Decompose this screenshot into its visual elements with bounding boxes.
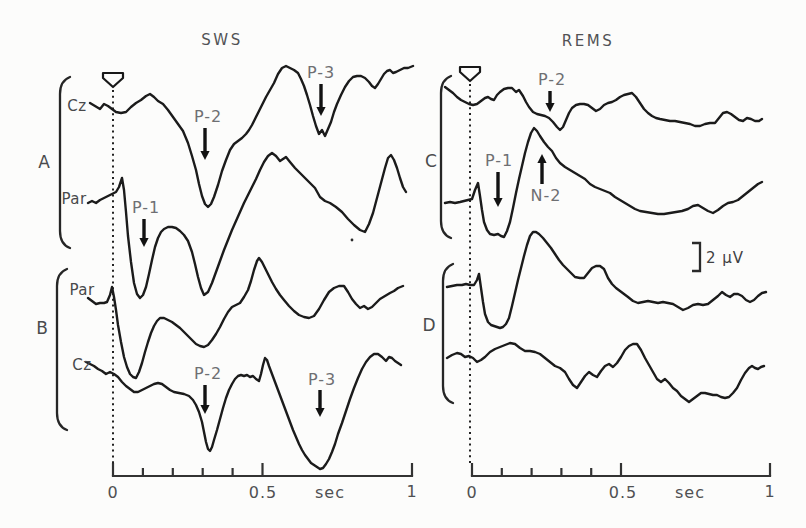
peak-label-p1-a: P-1 <box>132 198 160 217</box>
peak-label-p3-a: P-3 <box>307 63 335 82</box>
trace-a-par <box>88 153 406 298</box>
peak-arrow-head-4 <box>315 408 324 417</box>
stimulus-arrow-icon-sws <box>103 73 123 87</box>
electrode-label-b-cz: Cz <box>72 356 91 374</box>
panel-title-sws: SWS <box>201 31 242 49</box>
stimulus-onset-lines-layer <box>113 84 470 466</box>
group-label-d: D <box>422 315 435 335</box>
sws-axis-tick-1: 1 <box>406 482 417 501</box>
trace-c-upper <box>445 87 762 130</box>
evoked-potential-figure: SWS REMS A B C D Cz Par Par Cz P-2 P-3 P… <box>0 0 806 528</box>
amplitude-scale-bracket <box>692 243 700 271</box>
electrode-label-b-par: Par <box>69 281 95 299</box>
stimulus-arrow-icon-rems <box>460 67 480 81</box>
rems-axis-tick-1: 1 <box>764 482 775 501</box>
electrode-label-a-cz: Cz <box>67 97 86 115</box>
rems-axis-tick-05: 0.5 <box>609 483 637 502</box>
peak-label-p2-a: P-2 <box>194 107 222 126</box>
trace-d-lower <box>447 343 764 402</box>
peak-arrow-head-3 <box>200 405 209 414</box>
peak-label-p2-c: P-2 <box>538 70 566 89</box>
waveform-traces-layer <box>86 66 766 469</box>
trace-b-cz <box>86 354 401 469</box>
group-label-b: B <box>36 318 48 338</box>
peak-arrow-head-5 <box>545 103 554 112</box>
sws-axis-tick-0: 0 <box>107 483 118 502</box>
bracket-d <box>443 264 453 403</box>
peak-arrow-head-1 <box>316 107 325 116</box>
peak-label-p2-b: P-2 <box>194 364 222 383</box>
electrode-label-a-par: Par <box>61 190 87 208</box>
group-label-a: A <box>38 152 50 172</box>
trace-d-upper <box>447 232 766 328</box>
peak-label-p3-b: P-3 <box>308 370 336 389</box>
peak-arrow-head-0 <box>200 151 209 160</box>
peak-arrow-head-7 <box>537 154 546 163</box>
group-label-c: C <box>425 151 437 171</box>
sws-axis-unit: sec <box>315 483 345 502</box>
peak-label-n2-c: N-2 <box>531 186 562 205</box>
trace-b-par <box>88 258 403 378</box>
bracket-b <box>57 269 67 430</box>
peak-arrow-head-2 <box>139 238 148 247</box>
trace-c-lower <box>445 128 762 237</box>
peak-label-p1-c: P-1 <box>485 151 513 170</box>
figure-canvas: SWS REMS A B C D Cz Par Par Cz P-2 P-3 P… <box>0 0 806 528</box>
panel-title-rems: REMS <box>562 32 614 50</box>
sws-axis-tick-05: 0.5 <box>249 483 277 502</box>
rems-axis-tick-0: 0 <box>466 483 477 502</box>
print-artifact-dot <box>351 239 354 242</box>
bracket-c <box>441 76 451 238</box>
time-axes-layer <box>113 463 770 476</box>
rems-axis-unit: sec <box>675 483 705 502</box>
peak-arrow-head-6 <box>493 198 502 207</box>
amplitude-scale-label: 2 μV <box>706 249 744 267</box>
